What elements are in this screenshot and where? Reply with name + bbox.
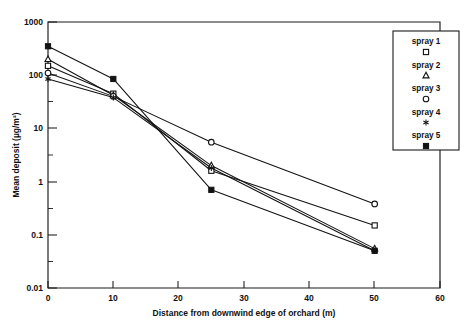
data-point-spray-1-x0 <box>45 63 50 68</box>
series-lines <box>48 46 375 251</box>
data-point-spray-3-x0 <box>45 70 51 76</box>
x-tick-label-10: 10 <box>108 293 118 303</box>
y-axis-tick-labels: 1000 100 10 1 0.1 0.01 <box>24 17 43 293</box>
series-line-spray-1 <box>48 66 375 226</box>
deposit-distance-line-chart: 1000 100 10 1 0.1 0.01 0 10 20 30 40 50 … <box>0 0 469 327</box>
y-tick-label-0.1: 0.1 <box>31 230 43 240</box>
legend-marker-spray-5 <box>423 143 428 148</box>
series-line-spray-5 <box>48 46 375 251</box>
x-tick-label-60: 60 <box>435 293 445 303</box>
y-axis-label: Mean deposit (µg/m²) <box>11 112 21 197</box>
legend-label-spray-5: spray 5 <box>412 131 441 140</box>
data-point-spray-5-x25 <box>209 187 214 192</box>
x-tick-label-40: 40 <box>304 293 314 303</box>
y-tick-label-0.01: 0.01 <box>26 283 43 293</box>
x-axis-ticks <box>48 281 440 288</box>
legend-label-spray-2: spray 2 <box>412 61 441 70</box>
series-markers <box>45 44 378 254</box>
data-point-spray-3-x25 <box>209 139 215 145</box>
data-point-spray-2-x0 <box>45 56 51 62</box>
y-tick-label-1: 1 <box>38 177 43 187</box>
data-point-spray-3-x50 <box>372 201 378 207</box>
legend-label-spray-3: spray 3 <box>412 84 441 93</box>
legend: spray 1spray 2spray 3spray 4spray 5 <box>393 31 459 150</box>
y-tick-label-10: 10 <box>34 123 44 133</box>
legend-label-spray-4: spray 4 <box>412 108 441 117</box>
legend-marker-spray-3 <box>423 96 429 102</box>
data-point-spray-5-x50 <box>372 248 377 253</box>
x-tick-label-0: 0 <box>46 293 51 303</box>
y-tick-label-100: 100 <box>29 70 43 80</box>
data-point-spray-5-x0 <box>45 44 50 49</box>
x-tick-label-20: 20 <box>173 293 183 303</box>
x-tick-label-50: 50 <box>369 293 379 303</box>
x-axis-label: Distance from downwind edge of orchard (… <box>153 308 336 318</box>
data-point-spray-1-x50 <box>372 223 377 228</box>
x-tick-label-30: 30 <box>239 293 249 303</box>
legend-label-spray-1: spray 1 <box>412 37 441 46</box>
data-point-spray-5-x10 <box>111 76 116 81</box>
series-line-spray-2 <box>48 59 375 248</box>
y-tick-label-1000: 1000 <box>24 17 43 27</box>
x-axis-tick-labels: 0 10 20 30 40 50 60 <box>46 293 445 303</box>
legend-marker-spray-1 <box>423 49 428 54</box>
